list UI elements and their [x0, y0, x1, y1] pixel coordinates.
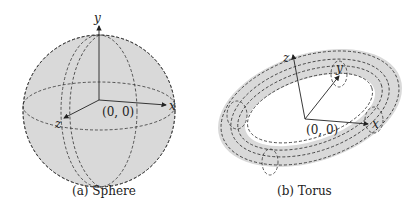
- torus-diagram: z y x (0, 0): [206, 30, 413, 186]
- torus-origin-label: (0, 0): [306, 123, 338, 137]
- sphere-x-axis-label: x: [169, 99, 176, 113]
- sphere-diagram: y x z (0, 0): [23, 11, 176, 187]
- sphere-z-axis-label: z: [54, 117, 62, 131]
- figure-canvas: y x z (0, 0) z y x (0, 0): [0, 0, 413, 212]
- torus-y-axis-label: y: [335, 61, 343, 75]
- sphere-origin-label: (0, 0): [102, 105, 134, 119]
- sphere-caption: (a) Sphere: [72, 184, 136, 198]
- torus-z-axis-label: z: [282, 51, 290, 65]
- sphere-y-axis-label: y: [93, 11, 101, 25]
- torus-caption: (b) Torus: [277, 184, 332, 198]
- torus-x-axis-label: x: [372, 117, 379, 131]
